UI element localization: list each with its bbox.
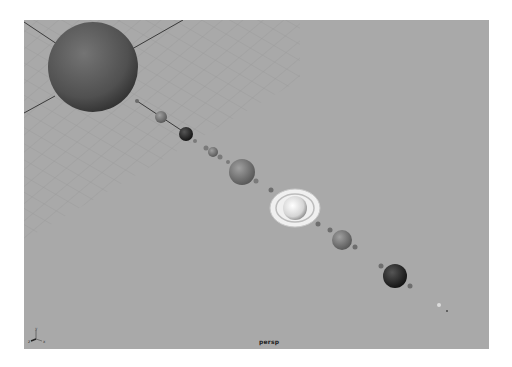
moon-h-sphere[interactable] bbox=[316, 222, 321, 227]
planet-2-sphere[interactable] bbox=[179, 127, 193, 141]
moon-j-sphere[interactable] bbox=[353, 245, 358, 250]
saturn-sphere[interactable] bbox=[283, 196, 307, 220]
moon-m-sphere[interactable] bbox=[437, 303, 441, 307]
scene-canvas[interactable] bbox=[24, 20, 489, 349]
axis-y-label: y bbox=[35, 326, 38, 331]
axis-x-label: x bbox=[43, 339, 46, 344]
moon-a-sphere[interactable] bbox=[135, 99, 139, 103]
moon-c-sphere[interactable] bbox=[204, 146, 209, 151]
planet-1-sphere[interactable] bbox=[155, 111, 167, 123]
3d-viewport[interactable]: y z x persp bbox=[24, 20, 489, 349]
moon-g-sphere[interactable] bbox=[269, 188, 274, 193]
moon-i-sphere[interactable] bbox=[328, 228, 333, 233]
planet-5-sphere[interactable] bbox=[332, 230, 352, 250]
moon-b-sphere[interactable] bbox=[193, 139, 197, 143]
camera-name-label: persp bbox=[259, 338, 279, 345]
moon-e-sphere[interactable] bbox=[226, 160, 230, 164]
planet-4-sphere[interactable] bbox=[229, 159, 255, 185]
planet-6-sphere[interactable] bbox=[383, 264, 407, 288]
axis-gizmo: y z x bbox=[27, 326, 49, 346]
moon-f-sphere[interactable] bbox=[254, 179, 259, 184]
moon-l-sphere[interactable] bbox=[408, 284, 413, 289]
sun-sphere bbox=[48, 22, 138, 112]
moon-n-sphere[interactable] bbox=[446, 310, 448, 312]
moon-k-sphere[interactable] bbox=[379, 264, 384, 269]
moon-d-sphere[interactable] bbox=[218, 155, 223, 160]
axis-z-label: z bbox=[28, 339, 30, 344]
planet-group bbox=[135, 99, 448, 312]
planet-3-sphere[interactable] bbox=[208, 147, 218, 157]
